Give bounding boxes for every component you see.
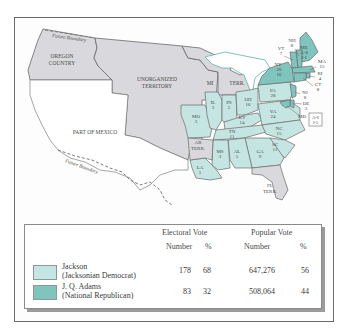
header-electoral-pct: % [205,242,212,251]
label-unorg-1: UNORGANIZED [137,76,177,82]
header-electoral-vote: Electoral Vote [162,228,207,237]
adams-electoral-number: 83 [165,287,191,296]
label-terr: TERR. [229,80,245,86]
label-ar-2: TERR. [191,146,205,151]
state-ri [306,73,310,78]
label-me-votes-2: J-1 [301,55,308,60]
label-ct-votes: 8 [317,87,320,92]
name-adams: J. Q. Adams [62,282,101,291]
label-fl-2: TERR. [263,189,277,194]
label-pa-votes: 28 [271,93,277,98]
label-ar-1: AR [195,140,203,145]
adams-popular-number: 508,064 [237,287,275,296]
party-jackson: (Jacksonian Democrat) [62,271,136,280]
adams-electoral-pct: 32 [195,287,211,296]
header-popular-vote: Popular Vote [251,228,292,237]
md-box-line-1: A-6 [312,115,320,120]
label-ri-votes: 4 [319,76,322,81]
jackson-electoral-pct: 68 [195,266,211,275]
md-box-line-2: J-5 [313,120,319,125]
state-pa [258,82,294,102]
label-fl-1: FL [267,183,273,188]
jackson-electoral-number: 178 [165,266,191,275]
label-oh-votes: 16 [246,102,252,107]
header-popular-number: Number [244,242,270,251]
label-tn-votes: 11 [230,134,235,139]
label-nj-votes: 8 [304,95,307,100]
party-adams: (National Republican) [62,291,133,300]
header-electoral-number: Number [166,242,192,251]
swatch-adams [33,285,57,300]
swatch-jackson [33,265,57,280]
adams-popular-pct: 44 [293,287,309,296]
jackson-popular-number: 647,276 [237,266,275,275]
label-mexico: PART OF MEXICO [73,129,118,135]
label-mi: MI [207,80,214,86]
label-va-votes: 24 [271,114,277,119]
label-unorg-2: TERRITORY [142,83,172,89]
legend-box: Electoral Vote Popular Vote Number % Num… [24,224,322,309]
state-ct [294,73,306,82]
label-ny-votes-2: 16 [277,72,283,77]
label-vt-votes: 7 [280,51,283,56]
label-oregon-1: OREGON [51,53,74,59]
label-ky-votes: 14 [240,120,246,125]
label-nc-votes: 15 [277,131,283,136]
label-ma-votes: 15 [320,64,326,69]
jackson-popular-pct: 56 [293,266,309,275]
header-popular-pct: % [300,242,307,251]
label-oregon-2: COUNTRY [49,60,75,66]
label-de-votes: 3 [305,106,308,111]
label-sc-votes: 11 [273,147,278,152]
label-md: MD [298,114,306,119]
label-nh-votes: 8 [291,43,294,48]
name-jackson: Jackson [62,262,87,271]
